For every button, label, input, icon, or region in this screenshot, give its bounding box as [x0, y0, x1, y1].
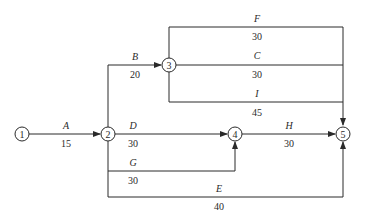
activity-i-duration: 45 — [252, 107, 262, 118]
activity-a-name: A — [62, 120, 70, 131]
activity-c-name: C — [254, 50, 261, 61]
activity-d-duration: 30 — [128, 138, 138, 149]
activity-e-arrow — [108, 142, 343, 197]
node-3: 3 — [162, 58, 176, 72]
activity-a-duration: 15 — [61, 138, 71, 149]
node-5-label: 5 — [341, 129, 346, 140]
node-5: 5 — [336, 127, 350, 141]
activity-h-name: H — [284, 120, 293, 131]
activity-d-name: D — [128, 120, 137, 131]
activity-g-name: G — [129, 157, 136, 168]
node-1: 1 — [15, 127, 29, 141]
activity-h-duration: 30 — [284, 138, 294, 149]
activity-e-duration: 40 — [214, 201, 224, 212]
activity-b-duration: 20 — [130, 69, 140, 80]
network-diagram: 1 2 3 4 5 A 15 B 20 F 30 C 30 I 45 D 30 … — [0, 0, 365, 222]
activity-b-name: B — [132, 51, 138, 62]
node-3-label: 3 — [167, 60, 172, 71]
activity-f-name: F — [253, 13, 261, 24]
node-4-label: 4 — [233, 129, 238, 140]
activity-f-duration: 30 — [252, 31, 262, 42]
node-2-label: 2 — [106, 129, 111, 140]
activity-e-name: E — [215, 183, 222, 194]
node-4: 4 — [228, 127, 242, 141]
node-1-label: 1 — [20, 129, 25, 140]
node-2: 2 — [101, 127, 115, 141]
activity-g-duration: 30 — [128, 175, 138, 186]
activity-i-name: I — [254, 88, 259, 99]
activity-c-duration: 30 — [252, 69, 262, 80]
